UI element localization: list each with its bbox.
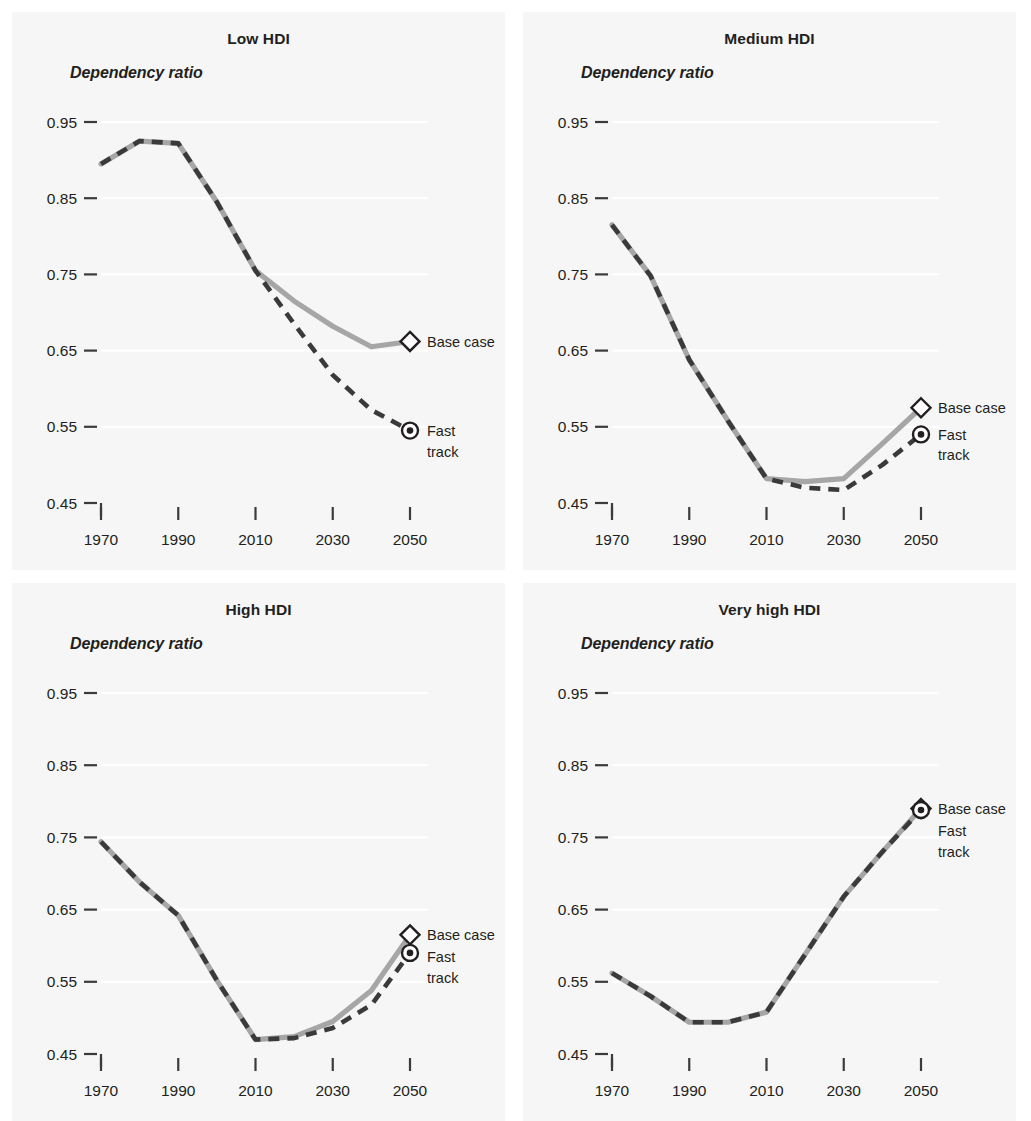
y-tick-label: 0.45 <box>558 495 588 512</box>
x-tick-label: 1990 <box>161 531 196 548</box>
marker-fast-track-dot-icon <box>918 431 925 438</box>
y-tick-label: 0.55 <box>558 418 588 435</box>
y-tick-label: 0.85 <box>558 190 588 207</box>
x-tick-label: 2030 <box>316 1082 351 1099</box>
legend-label-fast-track-line2: track <box>427 970 459 986</box>
legend-label-fast-track-line1: Fast <box>427 423 455 439</box>
x-tick-label: 2050 <box>393 531 428 548</box>
plot-area: 0.450.550.650.750.850.951970199020102030… <box>12 583 505 1121</box>
marker-fast-track-dot-icon <box>918 807 925 814</box>
series-line-base-case <box>101 141 410 347</box>
y-tick-label: 0.45 <box>558 1046 588 1063</box>
y-tick-label: 0.95 <box>47 114 77 131</box>
plot-svg-high-hdi: 0.450.550.650.750.850.951970199020102030… <box>12 583 505 1121</box>
legend-label-fast-track-line1: Fast <box>427 949 455 965</box>
legend-label-base-case: Base case <box>427 927 495 943</box>
series-line-fast-track <box>101 141 410 431</box>
series-line-fast-track <box>101 842 410 1040</box>
marker-fast-track-dot-icon <box>407 427 414 434</box>
y-tick-label: 0.95 <box>558 685 588 702</box>
plot-svg-low-hdi: 0.450.550.650.750.850.951970199020102030… <box>12 12 505 570</box>
plot-area: 0.450.550.650.750.850.951970199020102030… <box>523 12 1016 570</box>
legend-label-fast-track-line2: track <box>938 447 970 463</box>
plot-svg-medium-hdi: 0.450.550.650.750.850.951970199020102030… <box>523 12 1016 570</box>
y-tick-label: 0.45 <box>47 1046 77 1063</box>
y-tick-label: 0.85 <box>47 757 77 774</box>
y-tick-label: 0.55 <box>47 418 77 435</box>
x-tick-label: 1990 <box>161 1082 196 1099</box>
y-tick-label: 0.65 <box>47 901 77 918</box>
x-tick-label: 2010 <box>749 1082 784 1099</box>
x-tick-label: 1990 <box>672 531 707 548</box>
y-tick-label: 0.75 <box>47 266 77 283</box>
legend-label-base-case: Base case <box>938 400 1006 416</box>
x-tick-label: 2050 <box>904 531 939 548</box>
y-tick-label: 0.45 <box>47 495 77 512</box>
x-tick-label: 2010 <box>238 1082 273 1099</box>
legend-label-fast-track-line1: Fast <box>938 823 966 839</box>
y-tick-label: 0.95 <box>47 685 77 702</box>
legend-label-base-case: Base case <box>938 801 1006 817</box>
y-tick-label: 0.75 <box>558 266 588 283</box>
plot-area: 0.450.550.650.750.850.951970199020102030… <box>12 12 505 570</box>
series-line-base-case <box>612 225 921 482</box>
panel-high-hdi: High HDI Dependency ratio 0.450.550.650.… <box>12 583 505 1121</box>
x-tick-label: 1990 <box>672 1082 707 1099</box>
figure-four-panel-dependency-ratio: Low HDI Dependency ratio 0.450.550.650.7… <box>0 0 1031 1121</box>
x-tick-label: 2030 <box>827 1082 862 1099</box>
panel-low-hdi: Low HDI Dependency ratio 0.450.550.650.7… <box>12 12 505 570</box>
x-tick-label: 2050 <box>904 1082 939 1099</box>
y-tick-label: 0.55 <box>47 973 77 990</box>
legend-label-fast-track-line2: track <box>938 844 970 860</box>
marker-base-case-diamond-icon <box>401 332 420 351</box>
y-tick-label: 0.65 <box>558 342 588 359</box>
series-line-base-case <box>612 809 921 1023</box>
x-tick-label: 2050 <box>393 1082 428 1099</box>
x-tick-label: 2030 <box>827 531 862 548</box>
legend-label-fast-track-line2: track <box>427 444 459 460</box>
x-tick-label: 1970 <box>84 531 119 548</box>
y-tick-label: 0.85 <box>558 757 588 774</box>
x-tick-label: 1970 <box>595 1082 630 1099</box>
y-tick-label: 0.65 <box>47 342 77 359</box>
panel-very-high-hdi: Very high HDI Dependency ratio 0.450.550… <box>523 583 1016 1121</box>
panel-medium-hdi: Medium HDI Dependency ratio 0.450.550.65… <box>523 12 1016 570</box>
y-tick-label: 0.65 <box>558 901 588 918</box>
x-tick-label: 2010 <box>749 531 784 548</box>
plot-svg-very-high-hdi: 0.450.550.650.750.850.951970199020102030… <box>523 583 1016 1121</box>
y-tick-label: 0.75 <box>47 829 77 846</box>
x-tick-label: 1970 <box>84 1082 119 1099</box>
y-tick-label: 0.95 <box>558 114 588 131</box>
y-tick-label: 0.85 <box>47 190 77 207</box>
plot-area: 0.450.550.650.750.850.951970199020102030… <box>523 583 1016 1121</box>
series-line-fast-track <box>612 810 921 1022</box>
marker-fast-track-dot-icon <box>407 950 414 957</box>
y-tick-label: 0.55 <box>558 973 588 990</box>
legend-label-base-case: Base case <box>427 334 495 350</box>
legend-label-fast-track-line1: Fast <box>938 427 966 443</box>
x-tick-label: 1970 <box>595 531 630 548</box>
x-tick-label: 2010 <box>238 531 273 548</box>
x-tick-label: 2030 <box>316 531 351 548</box>
y-tick-label: 0.75 <box>558 829 588 846</box>
